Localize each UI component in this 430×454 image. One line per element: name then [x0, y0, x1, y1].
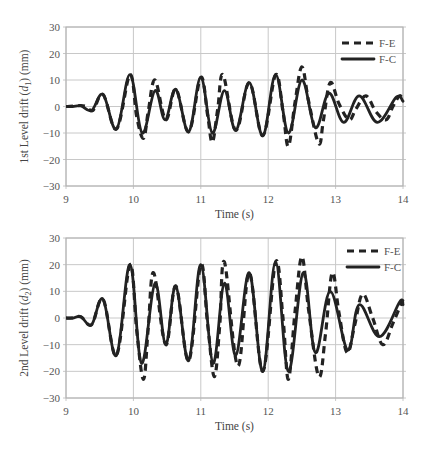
series-f-c — [66, 262, 403, 371]
y-tick-label: −30 — [43, 180, 61, 192]
x-axis-title: Time (s) — [215, 420, 254, 433]
y-tick-label: 30 — [49, 21, 61, 33]
legend-label-f-e: F-E — [379, 37, 396, 49]
legend: F-EF-C — [342, 37, 396, 65]
y-tick-label: 0 — [55, 312, 61, 324]
legend-label-f-e: F-E — [384, 245, 401, 257]
y-tick-label: 10 — [49, 74, 61, 86]
y-tick-label: 0 — [55, 101, 61, 113]
y-tick-label: −20 — [43, 154, 61, 166]
legend-label-f-c: F-C — [379, 53, 396, 65]
x-tick-label: 14 — [398, 405, 410, 417]
legend: F-EF-C — [347, 245, 401, 273]
y-tick-label: −20 — [43, 365, 61, 377]
x-axis-title: Time (s) — [215, 208, 254, 221]
y-tick-label: −10 — [43, 127, 61, 139]
y-axis-title: 1st Level drift (d1) (mm) — [18, 49, 33, 163]
chart-1-svg: 3020100−10−20−3091011121314Time (s)1st L… — [0, 0, 430, 222]
chart-2-svg: 3020100−10−20−3091011121314Time (s)2nd L… — [0, 226, 430, 454]
y-tick-label: 10 — [49, 285, 61, 297]
chart-1st-level-drift: 3020100−10−20−3091011121314Time (s)1st L… — [0, 0, 430, 222]
x-tick-label: 12 — [263, 193, 274, 205]
x-tick-label: 11 — [196, 193, 207, 205]
y-tick-label: 20 — [49, 48, 61, 60]
x-tick-label: 14 — [398, 193, 410, 205]
series-f-c — [66, 75, 403, 136]
y-tick-label: 20 — [49, 259, 61, 271]
x-tick-label: 9 — [63, 405, 69, 417]
y-tick-label: 30 — [49, 232, 61, 244]
y-tick-label: −30 — [43, 392, 61, 404]
x-tick-label: 12 — [263, 405, 274, 417]
x-tick-label: 10 — [128, 193, 140, 205]
x-tick-label: 13 — [330, 405, 342, 417]
chart-2nd-level-drift: 3020100−10−20−3091011121314Time (s)2nd L… — [0, 226, 430, 454]
x-tick-label: 10 — [128, 405, 140, 417]
x-tick-label: 11 — [196, 405, 207, 417]
legend-label-f-c: F-C — [384, 261, 401, 273]
y-tick-label: −10 — [43, 339, 61, 351]
x-tick-label: 13 — [330, 193, 342, 205]
y-axis-title: 2nd Level drift (d2) (mm) — [18, 259, 33, 377]
grid — [63, 27, 406, 189]
x-tick-label: 9 — [63, 193, 69, 205]
